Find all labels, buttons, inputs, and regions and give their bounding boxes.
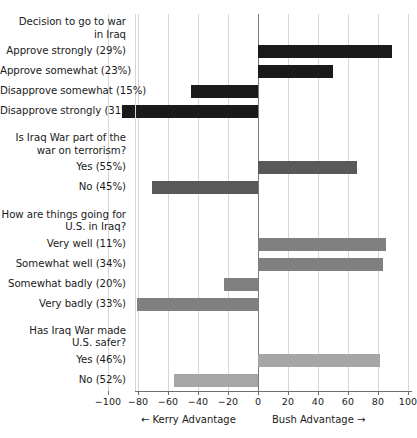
x-tick--80: [138, 391, 139, 395]
category-label: Very well (11%): [0, 238, 130, 249]
x-tick-label-0: 0: [255, 396, 261, 407]
group-heading-line2: U.S. safer?: [0, 337, 126, 350]
category-labels: Decision to go to warin IraqApprove stro…: [0, 0, 130, 438]
group-heading-line1: Has Iraq War made: [0, 325, 126, 338]
x-tick-label-80: 80: [372, 396, 384, 407]
plot-area: [135, 14, 412, 391]
gridline--80: [138, 14, 139, 391]
bar: [152, 181, 259, 194]
chart-root: −100−80−60−40−20020406080100 Decision to…: [0, 0, 417, 438]
gridline--40: [198, 14, 199, 391]
x-tick-label-20: 20: [282, 396, 294, 407]
x-tick-60: [348, 391, 349, 395]
category-label: Disapprove somewhat (15%): [0, 85, 130, 96]
bar: [258, 238, 386, 251]
gridline--60: [168, 14, 169, 391]
category-label: Yes (55%): [0, 161, 130, 172]
kerry-advantage-annotation: ← Kerry Advantage: [141, 414, 236, 425]
x-tick-label--60: −60: [158, 396, 178, 407]
category-label: Disapprove strongly (31%): [0, 105, 130, 116]
category-label: Approve strongly (29%): [0, 45, 130, 56]
gridline-60: [348, 14, 349, 391]
category-label: Yes (46%): [0, 354, 130, 365]
group-heading-3: How are things going forU.S. in Iraq?: [0, 209, 130, 234]
bar: [137, 298, 259, 311]
bar: [258, 65, 333, 78]
x-tick-label--20: −20: [218, 396, 238, 407]
x-tick--20: [228, 391, 229, 395]
x-tick-label--40: −40: [188, 396, 208, 407]
group-heading-line1: Decision to go to war: [0, 16, 126, 29]
category-label: Approve somewhat (23%): [0, 65, 130, 76]
group-heading-1: Decision to go to warin Iraq: [0, 16, 130, 41]
plot-left-border: [135, 14, 136, 391]
x-tick-label--80: −80: [128, 396, 148, 407]
category-label: No (45%): [0, 181, 130, 192]
gridline-100: [408, 14, 409, 391]
group-heading-2: Is Iraq War part of thewar on terrorism?: [0, 132, 130, 157]
x-tick-label-60: 60: [342, 396, 354, 407]
x-tick--40: [198, 391, 199, 395]
group-heading-line2: war on terrorism?: [0, 145, 126, 158]
group-heading-line1: How are things going for: [0, 209, 126, 222]
gridline--20: [228, 14, 229, 391]
group-heading-4: Has Iraq War madeU.S. safer?: [0, 325, 130, 350]
bar: [174, 374, 258, 387]
category-label: Somewhat well (34%): [0, 258, 130, 269]
x-tick-0: [258, 391, 259, 395]
gridline-80: [378, 14, 379, 391]
group-heading-line2: in Iraq: [0, 29, 126, 42]
bar: [258, 258, 383, 271]
bar: [224, 278, 259, 291]
x-tick-80: [378, 391, 379, 395]
category-label: No (52%): [0, 374, 130, 385]
bar: [191, 85, 259, 98]
group-heading-line2: U.S. in Iraq?: [0, 221, 126, 234]
x-tick-20: [288, 391, 289, 395]
bar: [258, 161, 357, 174]
bar: [258, 354, 380, 367]
group-heading-line1: Is Iraq War part of the: [0, 132, 126, 145]
x-axis-line: [135, 391, 412, 392]
bar: [122, 105, 259, 118]
x-tick--60: [168, 391, 169, 395]
bar: [258, 45, 392, 58]
x-tick-label-40: 40: [312, 396, 324, 407]
x-tick-100: [408, 391, 409, 395]
x-tick-40: [318, 391, 319, 395]
category-label: Very badly (33%): [0, 298, 130, 309]
x-tick-label-100: 100: [399, 396, 417, 407]
bush-advantage-annotation: Bush Advantage →: [272, 414, 365, 425]
category-label: Somewhat badly (20%): [0, 278, 130, 289]
